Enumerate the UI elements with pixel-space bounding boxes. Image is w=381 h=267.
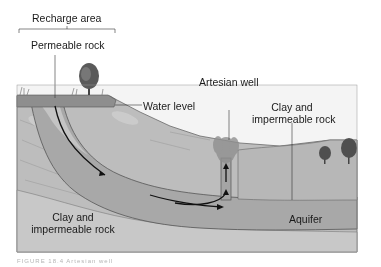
label-recharge-area: Recharge area [32, 12, 101, 24]
label-clay-left-line1: Clay and [28, 211, 118, 223]
clay-right-layer [238, 140, 357, 200]
topsoil-recharge [17, 95, 116, 107]
label-clay-left-line2: impermeable rock [28, 223, 118, 235]
label-aquifer: Aquifer [289, 213, 322, 225]
label-clay-left: Clay and impermeable rock [28, 211, 118, 235]
diagram-canvas: Recharge area Permeable rock Water level… [0, 0, 381, 267]
label-artesian-well: Artesian well [199, 76, 259, 88]
recharge-area-bracket [19, 26, 115, 33]
label-water-level: Water level [143, 100, 195, 112]
label-permeable-rock: Permeable rock [31, 39, 105, 51]
label-clay-right: Clay and impermeable rock [252, 101, 332, 125]
figure-caption: FIGURE 18.4 Artesian well [17, 258, 113, 264]
label-clay-right-line2: impermeable rock [252, 113, 332, 125]
label-clay-right-line1: Clay and [252, 101, 332, 113]
